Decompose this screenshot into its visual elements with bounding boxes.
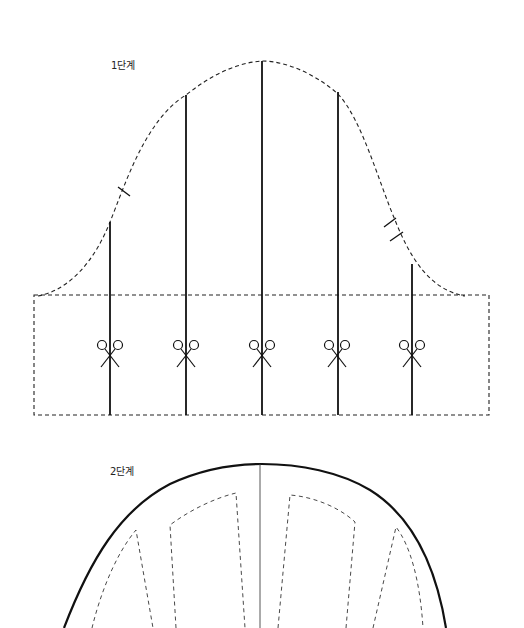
panel-left-outer [92,530,153,628]
panel-right-outer [373,527,423,628]
pattern-diagram: 1단계 2단계 [0,0,524,628]
scissors-icon [325,341,350,368]
spread-outline [64,464,446,628]
pattern-drawing [0,0,524,628]
notch-mark-back-1 [384,218,396,227]
notch-mark-back-2 [390,232,403,241]
sleeve-cap-outline [38,61,465,296]
notch-mark-front [118,187,130,196]
stage-2-drawing [64,464,446,628]
stage-1-drawing [34,61,489,415]
panel-left-center [170,493,245,628]
panel-right-center [278,495,355,628]
